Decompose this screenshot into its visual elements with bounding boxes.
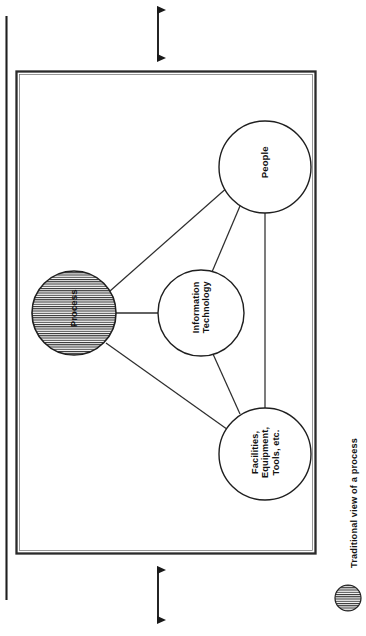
diagram-canvas (0, 0, 366, 636)
node-information-technology[interactable] (158, 270, 244, 356)
node-process[interactable] (32, 271, 116, 355)
node-people[interactable] (219, 121, 311, 213)
legend-hatched-circle-marker (335, 585, 361, 611)
figure-page: Process People InformationTechnology Fac… (0, 0, 366, 636)
figure-caption: Traditional view of a process (349, 408, 359, 568)
node-facilities-equipment-tools[interactable] (219, 408, 311, 500)
